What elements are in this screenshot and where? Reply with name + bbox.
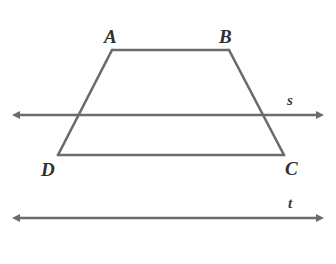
vertex-label-d: D [41, 160, 55, 179]
line-label-t: t [288, 196, 292, 211]
geometry-figure: A B D C s t [0, 0, 336, 264]
geometry-canvas [0, 0, 336, 264]
vertex-label-c: C [285, 159, 298, 178]
line-label-s: s [287, 93, 293, 108]
vertex-label-a: A [104, 27, 117, 46]
vertex-label-b: B [219, 27, 232, 46]
trapezoid-edge-bc [229, 50, 284, 155]
trapezoid-edge-da [58, 50, 112, 155]
